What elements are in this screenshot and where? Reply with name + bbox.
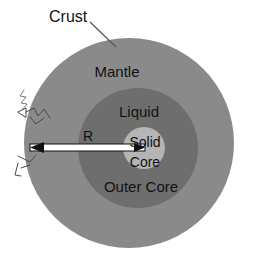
label-liquid: Liquid: [119, 103, 159, 120]
diagram-canvas: Crust Mantle Liquid Solid Core Outer Cor…: [0, 0, 258, 270]
label-outer-core: Outer Core: [104, 178, 178, 195]
label-core: Core: [130, 154, 161, 170]
label-crust: Crust: [49, 8, 88, 25]
label-radius: R: [83, 128, 93, 144]
radius-arrow-shaft: [30, 144, 145, 151]
label-solid: Solid: [129, 134, 160, 150]
earth-cross-section-svg: Crust Mantle Liquid Solid Core Outer Cor…: [0, 0, 258, 270]
label-mantle: Mantle: [94, 63, 139, 80]
